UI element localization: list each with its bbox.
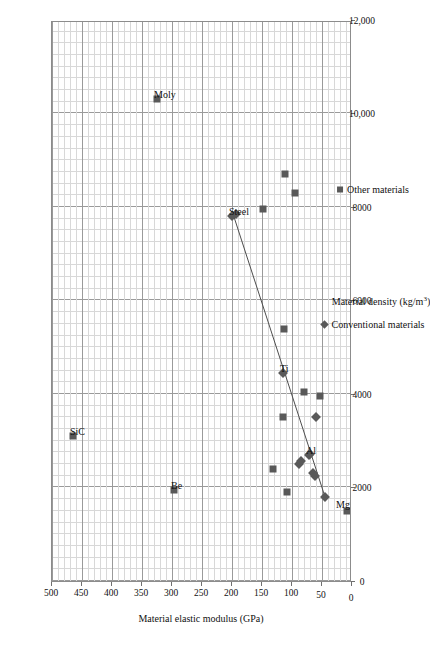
y-axis-title: Material elastic modulus (GPa) [138, 613, 263, 624]
y-tick-mark [201, 582, 202, 586]
x-tick-label: 12,000 [348, 16, 374, 26]
y-tick-label: 250 [193, 588, 207, 598]
data-point-square [259, 206, 266, 213]
legend-item-2: Other materials [337, 184, 409, 195]
y-tick-mark [291, 582, 292, 586]
y-tick-label: 100 [283, 588, 297, 598]
y-tick-mark [231, 582, 232, 586]
y-tick-mark [321, 582, 322, 586]
point-label: Moly [154, 90, 176, 100]
data-point-square [291, 189, 298, 196]
data-point-square [300, 388, 307, 395]
diamond-marker-icon [320, 320, 328, 328]
y-tick-mark [81, 582, 82, 586]
y-tick-label: 200 [223, 588, 237, 598]
point-label: Steel [229, 207, 249, 217]
legend-label: Conventional materials [331, 318, 424, 329]
data-point-square [269, 465, 276, 472]
point-label: SiC [70, 427, 85, 437]
x-tick-label: 10,000 [348, 110, 374, 120]
data-point-square [281, 171, 288, 178]
data-point-square [280, 325, 287, 332]
y-tick-label: 350 [133, 588, 147, 598]
y-tick-label: 150 [253, 588, 267, 598]
y-tick-mark [51, 582, 52, 586]
chart-figure: SteelTiAlMgMolySiCBe 0200040006000800010… [41, 17, 390, 628]
data-point-square [279, 414, 286, 421]
plot-area: SteelTiAlMgMolySiCBe [51, 21, 351, 582]
x-tick-label: 4000 [352, 390, 371, 400]
x-tick-label: 0 [359, 577, 364, 587]
y-tick-mark [171, 582, 172, 586]
y-tick-label: 300 [163, 588, 177, 598]
y-tick-label: 450 [73, 588, 87, 598]
y-tick-mark [351, 582, 352, 586]
legend-label: Other materials [347, 184, 409, 195]
point-label: Be [170, 481, 181, 491]
y-tick-mark [141, 582, 142, 586]
point-label: Mg [336, 500, 350, 510]
y-tick-label: 500 [43, 588, 57, 598]
x-axis-title: Material density (kg/m3) [331, 295, 430, 307]
trendline [52, 21, 351, 581]
data-point-square [283, 489, 290, 496]
y-tick-label: 50 [316, 590, 326, 600]
y-tick-mark [111, 582, 112, 586]
chart-page: SteelTiAlMgMolySiCBe 0200040006000800010… [0, 0, 430, 645]
y-tick-label: 400 [103, 588, 117, 598]
legend-item-1: Conventional materials [321, 318, 424, 329]
y-tick-mark [261, 582, 262, 586]
square-marker-icon [337, 186, 343, 192]
x-tick-label: 8000 [352, 203, 371, 213]
data-point-square [316, 393, 323, 400]
point-label: Al [305, 446, 315, 456]
x-tick-label: 2000 [352, 484, 371, 494]
point-label: Ti [280, 364, 289, 374]
y-tick-label: 0 [348, 593, 353, 603]
